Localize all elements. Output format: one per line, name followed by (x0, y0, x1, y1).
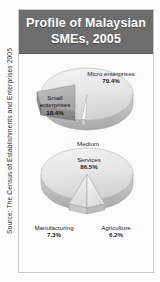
title-line-1: Profile of Malaysian (26, 16, 146, 30)
label-micro-enterprises: Micro enterprises 79.4% (75, 70, 147, 85)
source-credit-rail: Source: The Census of Establishments and… (0, 0, 17, 282)
page-title: Profile of Malaysian SMEs, 2005 (21, 16, 151, 47)
label-services-pct: 86.5% (59, 163, 119, 170)
label-micro-pct: 79.4% (75, 77, 147, 84)
label-agriculture: Agriculture 6.2% (85, 224, 147, 239)
label-services: Services 86.5% (59, 156, 119, 171)
pie-chart-sector-graphic: Services 86.5% Manufacturing 7.3% Agricu… (19, 138, 155, 222)
label-agriculture-name: Agriculture (101, 224, 131, 231)
chart-panel: Profile of Malaysian SMEs, 2005 (18, 9, 154, 273)
pie-chart-sector: Services 86.5% Manufacturing 7.3% Agricu… (19, 138, 153, 222)
label-manufacturing-pct: 7.3% (23, 231, 85, 238)
label-small-enterprises: Small enterprises 18.4% (33, 94, 77, 116)
infographic-figure: Source: The Census of Establishments and… (0, 0, 160, 282)
label-small-name: Small (47, 94, 62, 101)
title-line-2: SMEs, 2005 (51, 32, 121, 46)
label-manufacturing-name: Manufacturing (34, 224, 73, 231)
charts-container: Micro enterprises 79.4% Small enterprise… (19, 54, 153, 272)
pie-chart-size-graphic: Micro enterprises 79.4% Small enterprise… (19, 54, 155, 138)
label-small-pct: 18.4% (33, 109, 77, 116)
title-banner: Profile of Malaysian SMEs, 2005 (19, 10, 153, 54)
pie-chart-size: Micro enterprises 79.4% Small enterprise… (19, 54, 153, 138)
pie-sector-svg (19, 138, 155, 222)
label-small-name-2: enterprises (40, 101, 71, 108)
label-agriculture-pct: 6.2% (85, 231, 147, 238)
source-credit-text: Source: The Census of Establishments and… (5, 48, 12, 234)
label-services-name: Services (77, 156, 101, 163)
label-micro-name: Micro enterprises (87, 70, 134, 77)
label-manufacturing: Manufacturing 7.3% (23, 224, 85, 239)
